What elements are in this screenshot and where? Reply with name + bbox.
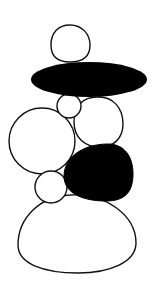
small-stone: [57, 94, 81, 118]
top-stone: [51, 25, 90, 62]
base-stone: [18, 195, 136, 273]
dark-blob-stone: [64, 144, 133, 201]
cairn-svg: [0, 0, 164, 288]
flat-dark-stone: [31, 62, 147, 97]
cairn-illustration: [0, 0, 164, 288]
lower-small-stone: [35, 171, 67, 203]
